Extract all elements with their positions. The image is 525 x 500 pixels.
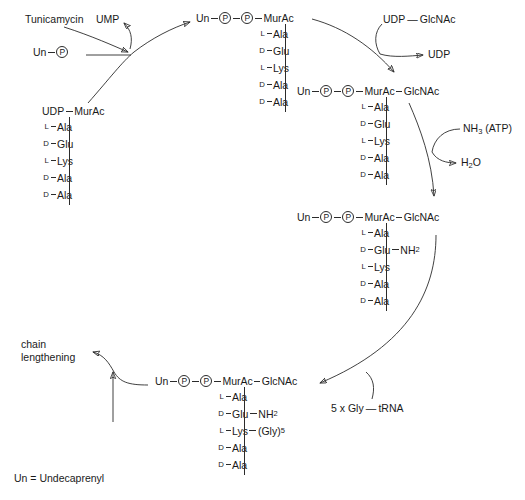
bond-dash <box>226 430 231 431</box>
peptide-residue-row: D Ala <box>258 93 294 110</box>
arc-to-chain-lengthening <box>93 352 148 385</box>
bond-dash <box>267 33 272 34</box>
peptide-residue-row: L Lys <box>359 258 439 275</box>
peptide-backbone-line <box>386 223 387 311</box>
chain-lengthening-line1: chain <box>21 338 46 350</box>
bond-dash <box>226 396 231 397</box>
glcnac-label: GlcNAc <box>404 85 440 97</box>
lipid2-gly5-head: Un P P MurAc GlcNAc <box>155 375 297 387</box>
nh3-prefix: NH <box>463 122 478 134</box>
chirality: L <box>359 262 366 271</box>
peptide-residue-row: L Lys <box>258 59 294 76</box>
label-chain-lengthening: chain lengthening <box>21 338 93 364</box>
residue-branch: NH <box>400 244 415 256</box>
label-tunicamycin: Tunicamycin <box>25 13 84 25</box>
arrow-udp-out <box>380 54 423 56</box>
residue: Glu <box>273 45 289 57</box>
bond-dash <box>214 381 221 382</box>
udp-label: UDP <box>42 105 64 117</box>
chirality: L <box>359 102 366 111</box>
chirality: D <box>359 245 366 254</box>
residue: Glu <box>232 408 248 420</box>
bond-dash <box>368 266 373 267</box>
chirality: L <box>258 29 265 38</box>
bond-dash <box>368 140 373 141</box>
arc-udpglcnac-in <box>376 24 382 54</box>
bond-dash <box>267 50 272 51</box>
lipid2-head: Un P P MurAc GlcNAc <box>297 85 439 97</box>
label-water: H2O <box>461 156 481 170</box>
un-label: Un <box>196 12 209 24</box>
un-label: Un <box>33 46 46 58</box>
phosphate-icon: P <box>219 12 231 24</box>
peptide-backbone-line <box>386 97 387 185</box>
arc-lipid1-to-lipid2 <box>312 19 394 72</box>
bond-dash <box>334 91 341 92</box>
bond-dash <box>255 18 262 19</box>
phosphate-icon: P <box>200 375 212 387</box>
chirality: D <box>42 139 49 148</box>
bond-dash <box>51 143 56 144</box>
phosphate-icon: P <box>342 211 354 223</box>
chirality: D <box>258 80 265 89</box>
residue-branch-subscript: 2 <box>416 245 420 254</box>
bond-dash <box>51 177 56 178</box>
udp-murac-head: UDP MurAc <box>42 105 105 117</box>
bond-dash <box>48 52 55 53</box>
murac-label: MurAc <box>74 105 104 117</box>
chirality: D <box>359 279 366 288</box>
residue-branch-subscript: 5 <box>281 426 285 435</box>
chirality: L <box>42 156 49 165</box>
residue: Lys <box>57 155 73 167</box>
bond-dash <box>368 232 373 233</box>
structure-lipid1: Un P P MurAc L Ala D Glu L Lys <box>196 12 294 110</box>
residue: Lys <box>374 135 390 147</box>
peptide-backbone-line <box>244 387 245 475</box>
phosphate-icon: P <box>241 12 253 24</box>
peptide-residue-row: L Lys <box>42 152 105 169</box>
peptide-backbone-line <box>285 24 286 112</box>
phosphate-icon: P <box>342 85 354 97</box>
peptide-ladder: L Ala D Glu NH2 L Lys D Ala <box>297 224 439 309</box>
peptide-residue-row: L Ala <box>217 388 297 405</box>
bond-dash <box>368 300 373 301</box>
chirality: L <box>359 136 366 145</box>
bond-dash <box>334 217 341 218</box>
bond-dash <box>368 283 373 284</box>
bond-dash <box>254 381 260 382</box>
peptide-ladder: L Ala D Glu NH2 L Lys (Gly)5 D A <box>155 388 297 473</box>
pathway-diagram: Tunicamycin UMP UDP — GlcNAc UDP NH3 (AT… <box>0 0 525 500</box>
peptide-residue-row: D Glu <box>258 42 294 59</box>
un-label: Un <box>297 211 310 223</box>
bond-dash <box>211 18 218 19</box>
label-udp-glcnac: UDP — GlcNAc <box>383 13 455 25</box>
bond-dash <box>368 249 373 250</box>
chirality: D <box>359 119 366 128</box>
residue: Glu <box>374 118 390 130</box>
peptide-residue-row: D Glu NH2 <box>217 405 297 422</box>
un-label: Un <box>155 375 168 387</box>
chirality: L <box>217 392 224 401</box>
phosphate-icon: P <box>178 375 190 387</box>
chirality: L <box>258 63 265 72</box>
label-gly-trna: 5 x Gly — tRNA <box>331 402 403 414</box>
structure-lipid2-amidated: Un P P MurAc GlcNAc L Ala D Glu NH2 <box>297 211 439 309</box>
peptide-residue-row: D Ala <box>217 456 297 473</box>
peptide-ladder: L Ala D Glu L Lys D Ala D A <box>42 118 105 203</box>
residue: Lys <box>232 425 248 437</box>
water-suffix: O <box>473 156 481 168</box>
arc-glytrna-in <box>366 372 374 399</box>
bond-dash <box>192 381 199 382</box>
peptide-residue-row: D Ala <box>359 292 439 309</box>
murac-label: MurAc <box>222 375 252 387</box>
peptide-residue-row: L Ala <box>42 118 105 135</box>
peptide-residue-row: D Ala <box>359 275 439 292</box>
bond-dash <box>312 91 319 92</box>
peptide-residue-row: L Lys <box>359 132 439 149</box>
peptide-residue-row: D Ala <box>217 439 297 456</box>
branch-bond-dash <box>250 413 257 414</box>
bond-dash <box>51 194 56 195</box>
bond-dash <box>267 101 272 102</box>
peptide-residue-row: D Ala <box>258 76 294 93</box>
chirality: D <box>217 460 224 469</box>
